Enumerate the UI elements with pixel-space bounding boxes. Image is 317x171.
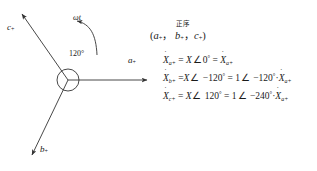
equation-a: ̇Xa+ = X∠0° = ̇Xa+: [163, 54, 233, 66]
omega-t-label: ωt: [73, 13, 81, 22]
vector-label-c: c+: [7, 22, 14, 32]
equation-b: ̇Xb+ =X∠ −120° = 1∠ −120°·̇Xa+: [163, 72, 292, 84]
sequence-phase-label: (a+， b+，c+): [150, 27, 206, 42]
figure-root: a+ b+ c+ 120° ωt 正序 (a+， b+，c+) ̇Xa+ = X…: [0, 0, 317, 171]
vector-c-line: [22, 14, 68, 80]
equation-c: ̇Xc+ = X∠ 120° = 1∠ −240°·̇Xa+: [163, 90, 288, 102]
vector-label-b: b+: [40, 144, 48, 154]
vector-b-line: [32, 80, 68, 155]
vector-label-a: a+: [128, 55, 136, 65]
angle-label-120: 120°: [69, 49, 84, 58]
